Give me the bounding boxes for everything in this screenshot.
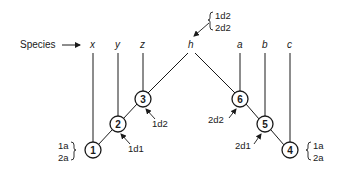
node4-annotation-line2: 2a <box>313 152 324 163</box>
svg-text:4: 4 <box>287 145 293 156</box>
node5-annotation: 2d1 <box>235 140 251 151</box>
node6-arrow-icon <box>229 109 236 118</box>
svg-text:5: 5 <box>262 119 268 130</box>
node4-annotation-line1: 1a <box>313 140 324 151</box>
edge-1-2 <box>98 130 112 145</box>
node1-annotation-line1: 1a <box>58 140 69 151</box>
h-brace-icon <box>208 12 213 30</box>
h-annotation-line2: 2d2 <box>215 22 231 33</box>
species-label: Species <box>20 39 56 50</box>
node5-arrow-icon <box>254 134 261 144</box>
node1-brace-icon <box>71 142 76 160</box>
svg-text:3: 3 <box>140 94 146 105</box>
h-arrow-icon <box>194 23 209 36</box>
node-5: 5 <box>257 116 273 132</box>
edge-h-6 <box>195 53 235 93</box>
species-b: b <box>262 39 268 50</box>
species-c: c <box>287 39 292 50</box>
svg-text:2: 2 <box>115 119 121 130</box>
node6-annotation: 2d2 <box>208 114 224 125</box>
species-a: a <box>237 39 243 50</box>
edge-6-5 <box>246 104 259 119</box>
svg-text:1: 1 <box>90 145 96 156</box>
node-1: 1 <box>85 142 101 158</box>
node4-brace-icon <box>306 142 311 160</box>
edge-5-4 <box>271 130 284 145</box>
node-4: 4 <box>282 142 298 158</box>
species-h: h <box>188 39 194 50</box>
species-z: z <box>139 39 145 50</box>
node3-annotation: 1d2 <box>152 118 168 129</box>
node-3: 3 <box>135 91 151 107</box>
species-y: y <box>114 39 121 50</box>
svg-text:6: 6 <box>237 94 243 105</box>
phylogenetic-tree-diagram: Species x y z h a b c 1 2 3 6 5 4 <box>0 0 341 172</box>
edge-2-3 <box>123 104 137 119</box>
edge-3-h <box>148 53 188 93</box>
node2-annotation: 1d1 <box>128 143 144 154</box>
h-annotation-line1: 1d2 <box>215 10 231 21</box>
node1-annotation-line2: 2a <box>58 152 69 163</box>
node-6: 6 <box>232 91 248 107</box>
node-2: 2 <box>110 116 126 132</box>
species-x: x <box>89 39 96 50</box>
